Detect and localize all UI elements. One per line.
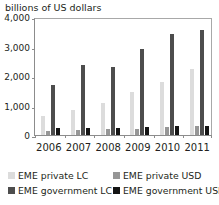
y-axis-tick-label: 1,000 bbox=[4, 102, 30, 111]
bar bbox=[135, 129, 139, 135]
bar bbox=[200, 30, 204, 135]
bar bbox=[205, 126, 209, 135]
bar bbox=[51, 85, 55, 135]
x-axis-tick-label: 2010 bbox=[155, 142, 180, 154]
bar bbox=[190, 69, 194, 135]
legend-swatch-eme-private-lc bbox=[8, 172, 15, 179]
y-axis-tick-label: 2,000 bbox=[4, 73, 30, 82]
legend-item-label: EME government USD bbox=[123, 186, 219, 196]
bar bbox=[41, 116, 45, 135]
legend-item-label: EME private LC bbox=[18, 171, 88, 181]
bar-group-2010 bbox=[160, 19, 179, 135]
legend-item-eme-government-usd[interactable]: EME government USD bbox=[113, 186, 219, 196]
plot-area bbox=[34, 18, 212, 136]
y-axis-tick-mark bbox=[32, 78, 35, 79]
bar bbox=[106, 129, 110, 135]
bar-group-2007 bbox=[71, 19, 90, 135]
bar bbox=[81, 65, 85, 135]
x-axis-tick-label: 2008 bbox=[95, 142, 120, 154]
legend-swatch-eme-government-usd bbox=[113, 187, 120, 194]
bars-layer bbox=[35, 19, 211, 135]
bar bbox=[56, 128, 60, 135]
bar bbox=[116, 128, 120, 135]
x-axis-tick-labels: 200620072008200920102011 bbox=[34, 142, 212, 156]
y-axis-tick-mark bbox=[32, 19, 35, 20]
bar bbox=[165, 127, 169, 135]
bar-group-2011 bbox=[190, 19, 209, 135]
y-axis-tick-labels: 01,0002,0003,0004,000 bbox=[0, 18, 33, 142]
x-axis-tick-mark bbox=[211, 135, 212, 138]
bar bbox=[160, 82, 164, 135]
legend-item-eme-private-usd[interactable]: EME private USD bbox=[113, 171, 219, 181]
x-axis-tick-label: 2009 bbox=[125, 142, 150, 154]
bar bbox=[101, 103, 105, 135]
legend-item-label: EME private USD bbox=[123, 171, 201, 181]
x-axis-tick-mark bbox=[65, 135, 66, 138]
legend-swatch-eme-government-lc bbox=[8, 187, 15, 194]
bar bbox=[170, 34, 174, 135]
bar bbox=[46, 131, 50, 135]
bar bbox=[195, 126, 199, 135]
bar bbox=[71, 110, 75, 135]
x-axis-tick-mark bbox=[35, 135, 36, 138]
bar bbox=[76, 130, 80, 135]
bar bbox=[140, 49, 144, 135]
x-axis-tick-label: 2011 bbox=[184, 142, 209, 154]
legend-item-eme-government-lc[interactable]: EME government LC bbox=[8, 186, 113, 196]
bar bbox=[130, 92, 134, 135]
x-axis-tick-mark bbox=[154, 135, 155, 138]
plot-wrapper: 01,0002,0003,0004,000 bbox=[0, 18, 219, 142]
y-axis-tick-mark bbox=[32, 108, 35, 109]
y-axis-tick-label: 0 bbox=[24, 132, 30, 141]
bar-chart: billions of US dollars 01,0002,0003,0004… bbox=[0, 0, 219, 205]
x-axis-tick-mark bbox=[94, 135, 95, 138]
x-axis-tick-label: 2006 bbox=[36, 142, 61, 154]
x-axis-tick-mark bbox=[124, 135, 125, 138]
bar bbox=[86, 128, 90, 135]
legend-swatch-eme-private-usd bbox=[113, 172, 120, 179]
chart-axis-title: billions of US dollars bbox=[5, 2, 101, 13]
bar bbox=[145, 127, 149, 135]
bar bbox=[175, 126, 179, 135]
bar-group-2006 bbox=[41, 19, 60, 135]
x-axis-tick-label: 2007 bbox=[66, 142, 91, 154]
chart-legend: EME private LCEME private USDEME governm… bbox=[8, 168, 219, 198]
x-axis-tick-mark bbox=[183, 135, 184, 138]
y-axis-tick-mark bbox=[32, 49, 35, 50]
y-axis-tick-label: 4,000 bbox=[4, 14, 30, 23]
bar-group-2009 bbox=[130, 19, 149, 135]
legend-item-eme-private-lc[interactable]: EME private LC bbox=[8, 171, 113, 181]
bar bbox=[111, 67, 115, 135]
y-axis-tick-label: 3,000 bbox=[4, 43, 30, 52]
bar-group-2008 bbox=[101, 19, 120, 135]
legend-item-label: EME government LC bbox=[18, 186, 112, 196]
